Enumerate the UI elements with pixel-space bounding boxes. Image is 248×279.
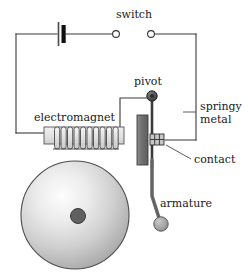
leader-lines xyxy=(166,112,196,159)
leader-contact xyxy=(166,145,191,159)
battery-short-plate xyxy=(62,25,66,43)
electromagnet xyxy=(44,127,124,149)
label-contact: contact xyxy=(194,153,236,166)
battery-symbol xyxy=(59,22,66,46)
bell-gong xyxy=(21,161,129,269)
label-pivot: pivot xyxy=(134,75,162,88)
switch-symbol[interactable] xyxy=(113,31,155,38)
label-switch: switch xyxy=(116,8,152,21)
pivot xyxy=(147,91,157,101)
gong-center-bolt xyxy=(71,209,86,224)
label-electromagnet: electromagnet xyxy=(34,111,116,124)
circuit-wiring xyxy=(16,34,196,140)
armature-arm xyxy=(152,160,160,221)
switch-contact-left[interactable] xyxy=(113,31,120,38)
switch-contact-right[interactable] xyxy=(148,31,155,38)
label-springy-metal-line2: metal xyxy=(200,113,232,126)
contact-point xyxy=(150,134,164,145)
label-armature: armature xyxy=(160,197,212,210)
armature xyxy=(152,160,168,231)
label-springy-metal-line1: springy xyxy=(200,100,243,113)
pivot-inner xyxy=(150,94,154,98)
electric-bell-diagram: switch pivot springy metal electromagnet… xyxy=(0,0,248,279)
armature-plate xyxy=(137,115,148,165)
diagram-canvas: switch pivot springy metal electromagnet… xyxy=(0,0,248,279)
armature-hammer xyxy=(154,217,168,231)
